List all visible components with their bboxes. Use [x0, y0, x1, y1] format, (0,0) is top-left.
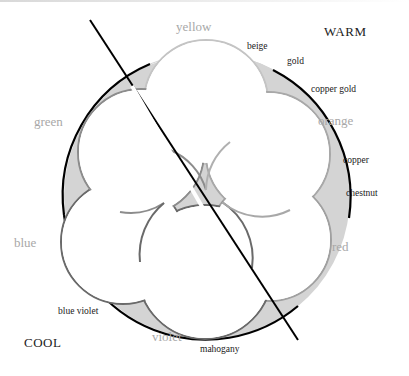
label-copper: copper: [343, 156, 369, 166]
label-cool: COOL: [24, 336, 61, 349]
label-gold: gold: [287, 57, 304, 67]
label-blue-violet: blue violet: [58, 307, 98, 317]
label-blue: blue: [14, 236, 36, 249]
label-chestnut: chestnut: [346, 189, 378, 199]
label-copper-gold: copper gold: [311, 85, 356, 95]
label-mahogany: mahogany: [200, 345, 240, 355]
label-violet: violet: [152, 330, 182, 343]
label-red: red: [332, 240, 349, 253]
label-beige: beige: [247, 42, 268, 52]
label-green: green: [34, 115, 63, 128]
label-orange: orange: [318, 114, 353, 127]
label-warm: WARM: [324, 25, 366, 38]
label-yellow: yellow: [176, 20, 211, 33]
